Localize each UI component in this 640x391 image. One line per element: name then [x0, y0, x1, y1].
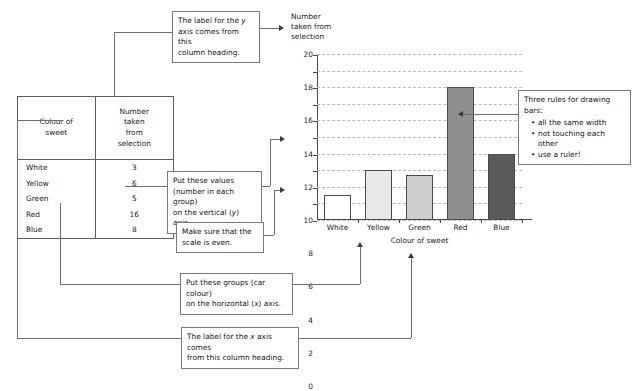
connector-xlabel-right [299, 338, 411, 339]
y-axis-tick-label: 10 [304, 217, 313, 224]
cell-colour: Yellow [18, 176, 96, 192]
header-number-line3: from [126, 128, 143, 137]
connector-groups-up [360, 247, 361, 284]
header-number-line2: taken [124, 117, 145, 126]
y-axis-tick-label: 0 [308, 383, 313, 390]
callout-scale-line1: Make sure that the [182, 227, 252, 236]
cell-colour: Green [18, 191, 96, 207]
x-axis-tick-mark [358, 219, 359, 223]
x-axis-tick-label: Red [440, 223, 481, 232]
y-axis-tick-label: 14 [304, 151, 313, 158]
arrow-to-x-axis-title [408, 253, 414, 258]
cell-colour: Blue [18, 222, 96, 238]
callout-x-axis-label: The label for the x axis comes from this… [181, 327, 299, 369]
cell-count: 16 [96, 207, 173, 223]
bar-slot [358, 54, 399, 220]
callout-scale-line2: scale is even. [182, 238, 232, 247]
table-row: Yellow 6 [18, 176, 173, 192]
connector-rules-to-bar [463, 114, 518, 115]
x-axis-labels: WhiteYellowGreenRedBlue [317, 223, 522, 232]
x-axis-tick-mark [399, 219, 400, 223]
y-axis-title: Number taken from selection [291, 12, 353, 43]
callout-y-axis-label: The label for the y axis comes from this… [172, 11, 260, 63]
cell-count: 3 [96, 160, 173, 176]
bar-series [317, 54, 522, 220]
connector-colourhdr-to-box [17, 338, 181, 339]
cell-colour: White [18, 160, 96, 176]
table-row: Green 5 [18, 191, 173, 207]
header-number-line1: Number [119, 107, 149, 116]
arrow-to-y-values [280, 136, 285, 142]
x-axis-title: Colour of sweet [317, 236, 522, 245]
connector-value5-to-callout [125, 186, 167, 187]
connector-xlabel-up [411, 258, 412, 338]
header-colour-line2: sweet [45, 128, 67, 137]
bar-chart: Number taken from selection 024681012141… [283, 48, 533, 238]
table-body: White 3 Yellow 6 Green 5 Red 16 Blue 8 [18, 160, 173, 238]
sweets-data-table: Colour of sweet Number taken from select… [17, 96, 174, 239]
arrow-to-y-scale [280, 187, 285, 193]
callout-y-line2: axis comes from this [178, 27, 239, 47]
table-row: White 3 [18, 160, 173, 176]
y-axis-tick-label: 4 [308, 317, 313, 324]
connector-colourhdr-vert [17, 120, 18, 338]
y-axis-title-line3: selection [291, 32, 324, 41]
rule-item: not touching each other [532, 129, 625, 150]
callout-three-rules: Three rules for drawing bars: all the sa… [518, 90, 631, 165]
callout-y-line1: The label for the y [178, 16, 246, 25]
header-colour-line1: Colour of [40, 117, 73, 126]
callout-y-line3: column heading. [178, 48, 240, 57]
connector-values-to-axis [262, 186, 270, 187]
table-row: Red 16 [18, 207, 173, 223]
connector-rows-vert [60, 203, 61, 284]
callout-x-line1: The label for the x axis comes [187, 332, 272, 352]
arrow-to-y-axis-title [279, 25, 284, 31]
table-row: Blue 8 [18, 222, 173, 238]
x-axis-tick-label: White [317, 223, 358, 232]
y-axis-tick-label: 8 [308, 250, 313, 257]
bar-white [324, 195, 351, 220]
rule-item: all the same width [532, 118, 625, 129]
y-axis-tick-label: 12 [304, 184, 313, 191]
x-axis-tick-label: Yellow [358, 223, 399, 232]
connector-colourhdr-horz [17, 120, 61, 121]
y-axis-tick-label: 20 [304, 51, 313, 58]
y-axis-title-line2: taken from [291, 22, 331, 31]
callout-scale: Make sure that the scale is even. [176, 222, 264, 253]
callout-groups-line2: on the horizontal (x) axis. [186, 299, 281, 308]
callout-rules-title: Three rules for drawing bars: [524, 95, 610, 115]
connector-groups-right [293, 284, 360, 285]
gridline: 0 [317, 220, 522, 221]
table-header-colour: Colour of sweet [18, 97, 96, 159]
callout-x-line2: from this column heading. [187, 353, 284, 362]
cell-colour: Red [18, 207, 96, 223]
bar-slot [440, 54, 481, 220]
bar-slot [481, 54, 522, 220]
y-axis-tick-label: 18 [304, 84, 313, 91]
x-axis-tick-mark [440, 219, 441, 223]
bar-slot [317, 54, 358, 220]
connector-ycol-vert [114, 32, 115, 96]
y-axis-tick-label: 16 [304, 118, 313, 125]
table-header-row: Colour of sweet Number taken from select… [18, 97, 173, 160]
connector-scale-right [264, 235, 274, 236]
connector-values-up [270, 139, 271, 186]
plot-area: 02468101214161820 [317, 54, 522, 220]
y-axis-tick-label: 2 [308, 350, 313, 357]
y-axis-title-line1: Number [291, 12, 321, 21]
bar-yellow [365, 170, 392, 220]
connector-rows-horz [60, 284, 180, 285]
x-axis-tick-label: Blue [481, 223, 522, 232]
arrow-to-yellow-label [357, 242, 363, 247]
callout-groups: Put these groups (car colour) on the hor… [180, 273, 293, 315]
callout-values-line2: (number in each group) [173, 187, 234, 207]
rule-item: use a ruler! [532, 150, 625, 161]
header-number-line4: selection [118, 139, 151, 148]
y-axis-tick-mark [313, 221, 317, 222]
cell-count: 8 [96, 222, 173, 238]
arrow-to-red-bar [458, 111, 463, 117]
connector-scale-up [274, 190, 275, 235]
x-axis-tick-label: Green [399, 223, 440, 232]
connector-ycol-horz [114, 32, 172, 33]
x-axis-tick-mark [481, 219, 482, 223]
